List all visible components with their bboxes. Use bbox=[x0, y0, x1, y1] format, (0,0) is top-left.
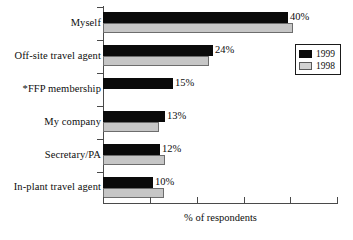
category-label-in-plant-travel-agent: In-plant travel agent bbox=[14, 181, 101, 192]
bar-1999-in-plant-travel-agent bbox=[103, 177, 153, 188]
gray-square-icon bbox=[299, 62, 312, 70]
legend-entry-1999: 1999 bbox=[299, 48, 340, 60]
bar-1998-off-site-travel-agent bbox=[103, 56, 209, 66]
x-axis-line bbox=[103, 203, 338, 204]
legend-label-1999: 1999 bbox=[316, 49, 335, 59]
black-square-icon bbox=[299, 50, 312, 58]
category-label-off-site-travel-agent: Off-site travel agent bbox=[15, 50, 101, 61]
bar-1999-off-site-travel-agent bbox=[103, 45, 213, 56]
bar-value-ffp-membership: 15% bbox=[175, 77, 194, 88]
x-axis-tick bbox=[337, 197, 338, 203]
bar-value-secretary-pa: 12% bbox=[162, 143, 181, 154]
x-axis-tick bbox=[290, 197, 291, 203]
bar-value-myself: 40% bbox=[290, 11, 309, 22]
category-label-myself: Myself bbox=[71, 17, 101, 28]
category-label-secretary-pa: Secretary/PA bbox=[45, 149, 101, 160]
legend-entry-1998: 1998 bbox=[299, 60, 340, 72]
bar-1999-ffp-membership bbox=[103, 78, 173, 89]
bar-1999-secretary-pa bbox=[103, 144, 160, 155]
chart-legend: 1999 1998 bbox=[295, 44, 341, 75]
bar-1998-in-plant-travel-agent bbox=[103, 188, 164, 198]
bar-value-in-plant-travel-agent: 10% bbox=[155, 176, 174, 187]
horizontal-bar-chart: Myself Off-site travel agent *FFP member… bbox=[0, 0, 353, 240]
category-label-my-company: My company bbox=[44, 116, 101, 127]
x-axis-tick bbox=[103, 197, 104, 203]
x-axis-tick bbox=[197, 197, 198, 203]
bar-value-my-company: 13% bbox=[167, 110, 186, 121]
legend-label-1998: 1998 bbox=[316, 61, 335, 71]
x-axis-tick bbox=[150, 197, 151, 203]
bar-1998-myself bbox=[103, 23, 293, 33]
category-label-ffp-membership: *FFP membership bbox=[23, 83, 101, 94]
bar-value-off-site-travel-agent: 24% bbox=[215, 44, 234, 55]
x-axis-tick bbox=[244, 197, 245, 203]
bar-1999-my-company bbox=[103, 111, 165, 122]
x-axis-title: % of respondents bbox=[103, 212, 338, 223]
plot-area: 40% 24% 15% 13% 12% 10% bbox=[103, 8, 337, 203]
bar-1998-secretary-pa bbox=[103, 155, 165, 165]
bar-1998-my-company bbox=[103, 122, 159, 132]
bar-1999-myself bbox=[103, 12, 288, 23]
